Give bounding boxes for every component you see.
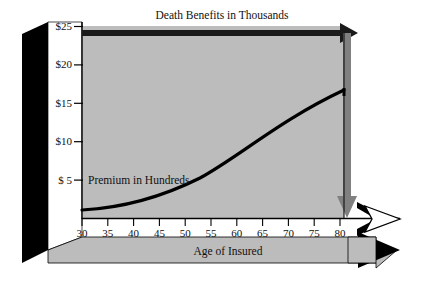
x-axis-label: Age of Insured [194, 245, 263, 258]
y-tick-label-15: $15 [56, 97, 73, 109]
x-tick-label-40: 40 [128, 227, 140, 239]
death-benefits-bar [82, 30, 346, 36]
x-tick-label-30: 30 [77, 227, 89, 239]
x-tick-label-70: 70 [283, 227, 295, 239]
left-3d-panel [22, 22, 48, 263]
chart-figure: Age of Insured $25 $20 $15 $10 $ 5 [0, 0, 447, 283]
x-tick-label-50: 50 [180, 227, 192, 239]
chart-canvas: Age of Insured $25 $20 $15 $10 $ 5 [0, 0, 447, 283]
y-tick-label-20: $20 [56, 58, 73, 70]
y-tick-label-5: $ 5 [58, 174, 72, 186]
y-tick-label-10: $10 [56, 135, 73, 147]
x-tick-label-35: 35 [102, 227, 114, 239]
plot-area [82, 26, 344, 218]
x-tick-label-60: 60 [231, 227, 243, 239]
x-tick-label-45: 45 [154, 227, 166, 239]
premium-series-label: Premium in Hundreds [88, 174, 190, 186]
x-tick-label-55: 55 [206, 227, 218, 239]
y-tick-label-25: $25 [56, 20, 73, 32]
base-band-arrow-face [348, 237, 376, 263]
chart-title: Death Benefits in Thousands [156, 9, 289, 21]
x-tick-label-75: 75 [309, 227, 321, 239]
x-tick-label-65: 65 [257, 227, 269, 239]
x-tick-label-80: 80 [335, 227, 347, 239]
